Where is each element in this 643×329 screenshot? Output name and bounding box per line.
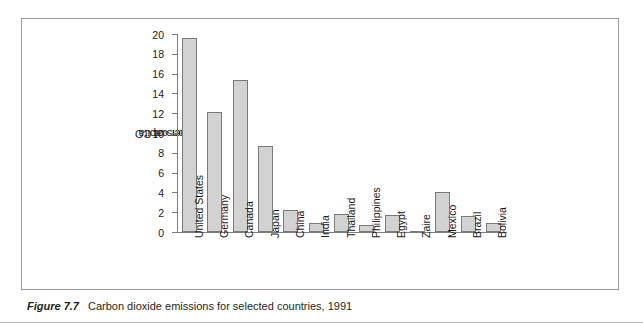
x-axis-label: India <box>320 215 331 238</box>
y-axis-tick: 16 <box>172 74 177 75</box>
x-axis-label: Zaire <box>421 214 432 238</box>
figure-caption-text: Carbon dioxide emissions for selected co… <box>88 300 352 312</box>
y-axis-tick-label: 20 <box>152 29 164 40</box>
y-axis-tick: 6 <box>172 173 177 174</box>
y-axis-tick: 12 <box>172 113 177 114</box>
x-axis-label: Philippines <box>371 187 382 238</box>
figure-container: Tons of CO2 per capita 02468101214161820… <box>0 0 643 329</box>
x-axis-label: Bolivia <box>497 207 508 238</box>
figure-number: Figure 7.7 <box>27 300 79 312</box>
y-axis-tick: 2 <box>172 212 177 213</box>
bar-chart: Tons of CO2 per capita 02468101214161820… <box>22 19 620 291</box>
plot-area: 02468101214161820 United StatesGermanyCa… <box>177 34 506 232</box>
x-axis-label: China <box>295 211 306 238</box>
y-axis-tick-label: 8 <box>158 148 164 159</box>
x-axis-label: Japan <box>270 209 281 238</box>
y-axis-line <box>177 34 178 233</box>
y-axis-tick-label: 16 <box>152 69 164 80</box>
y-axis-tick: 18 <box>172 54 177 55</box>
y-axis-tick: 20 <box>172 34 177 35</box>
y-axis-tick: 14 <box>172 93 177 94</box>
y-axis-tick-label: 6 <box>158 168 164 179</box>
y-axis-tick-label: 2 <box>158 207 164 218</box>
x-axis-label: Canada <box>244 201 255 238</box>
y-axis-tick: 4 <box>172 192 177 193</box>
x-axis-label: Egypt <box>396 211 407 238</box>
y-axis-tick-label: 10 <box>152 128 164 139</box>
y-axis-tick: 8 <box>172 153 177 154</box>
y-axis-tick-label: 4 <box>158 188 164 199</box>
y-axis-tick-label: 14 <box>152 89 164 100</box>
x-axis-label: Thailand <box>346 198 357 238</box>
x-axis-label: Germany <box>219 195 230 238</box>
x-axis-label: Brazil <box>472 212 483 238</box>
x-axis-label: United States <box>194 175 205 238</box>
y-axis-tick-label: 12 <box>152 108 164 119</box>
x-axis-label: Mexico <box>447 205 458 238</box>
y-axis-tick-label: 0 <box>158 227 164 238</box>
y-axis-tick: 10 <box>172 133 177 134</box>
chart-frame: Tons of CO2 per capita 02468101214161820… <box>21 18 619 290</box>
footer-divider <box>0 322 643 323</box>
figure-caption: Figure 7.7Carbon dioxide emissions for s… <box>27 300 619 313</box>
y-axis-tick: 0 <box>172 232 177 233</box>
y-axis-tick-label: 18 <box>152 49 164 60</box>
